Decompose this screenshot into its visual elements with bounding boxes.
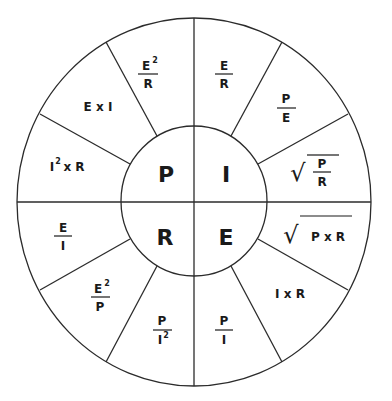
formula-e-times-i: E x I bbox=[84, 100, 113, 114]
svg-text:x R: x R bbox=[63, 160, 84, 174]
formula-e-squared-over-p: E 2 P bbox=[91, 279, 110, 314]
formula-i-times-r: I x R bbox=[275, 287, 305, 301]
svg-text:E: E bbox=[220, 59, 228, 73]
svg-text:2: 2 bbox=[163, 331, 169, 340]
formula-sqrt-p-over-r: √ P R bbox=[290, 155, 339, 189]
svg-text:E: E bbox=[94, 282, 102, 296]
svg-text:√: √ bbox=[290, 159, 306, 187]
svg-text:I: I bbox=[222, 333, 226, 347]
svg-text:P: P bbox=[96, 300, 105, 314]
svg-text:I x R: I x R bbox=[275, 287, 305, 301]
formula-e-over-r: E R bbox=[215, 59, 233, 91]
svg-text:2: 2 bbox=[152, 56, 158, 65]
svg-text:P: P bbox=[318, 157, 327, 171]
formula-e-over-i: E I bbox=[54, 221, 72, 253]
formula-p-over-i: P I bbox=[215, 314, 233, 347]
ohms-law-wheel: P I R E E 2 R E x I I 2 x R E R P E √ P … bbox=[0, 0, 392, 401]
svg-text:P: P bbox=[282, 92, 291, 106]
svg-text:2: 2 bbox=[55, 157, 61, 166]
svg-text:P: P bbox=[220, 314, 229, 328]
svg-text:2: 2 bbox=[104, 279, 110, 288]
svg-text:I: I bbox=[50, 160, 54, 174]
center-label-voltage: E bbox=[218, 225, 233, 250]
formula-i-squared-times-r: I 2 x R bbox=[50, 157, 85, 174]
center-label-power: P bbox=[158, 162, 174, 187]
formula-p-over-e: P E bbox=[277, 92, 296, 125]
svg-text:E: E bbox=[59, 221, 67, 235]
svg-text:E: E bbox=[142, 59, 150, 73]
formula-p-over-i-squared: P I 2 bbox=[153, 314, 172, 347]
svg-text:E: E bbox=[282, 111, 290, 125]
svg-text:R: R bbox=[143, 77, 152, 91]
center-label-current: I bbox=[222, 162, 230, 187]
svg-text:R: R bbox=[219, 77, 228, 91]
svg-text:E x I: E x I bbox=[84, 100, 113, 114]
formula-e-squared-over-r: E 2 R bbox=[138, 56, 158, 91]
svg-text:P: P bbox=[158, 314, 167, 328]
svg-text:I: I bbox=[158, 333, 162, 347]
svg-text:P x R: P x R bbox=[311, 230, 345, 244]
center-label-resistance: R bbox=[157, 225, 174, 250]
formula-sqrt-p-times-r: √ P x R bbox=[283, 216, 352, 249]
svg-text:I: I bbox=[61, 239, 65, 253]
svg-text:R: R bbox=[317, 175, 326, 189]
svg-text:√: √ bbox=[283, 221, 299, 249]
